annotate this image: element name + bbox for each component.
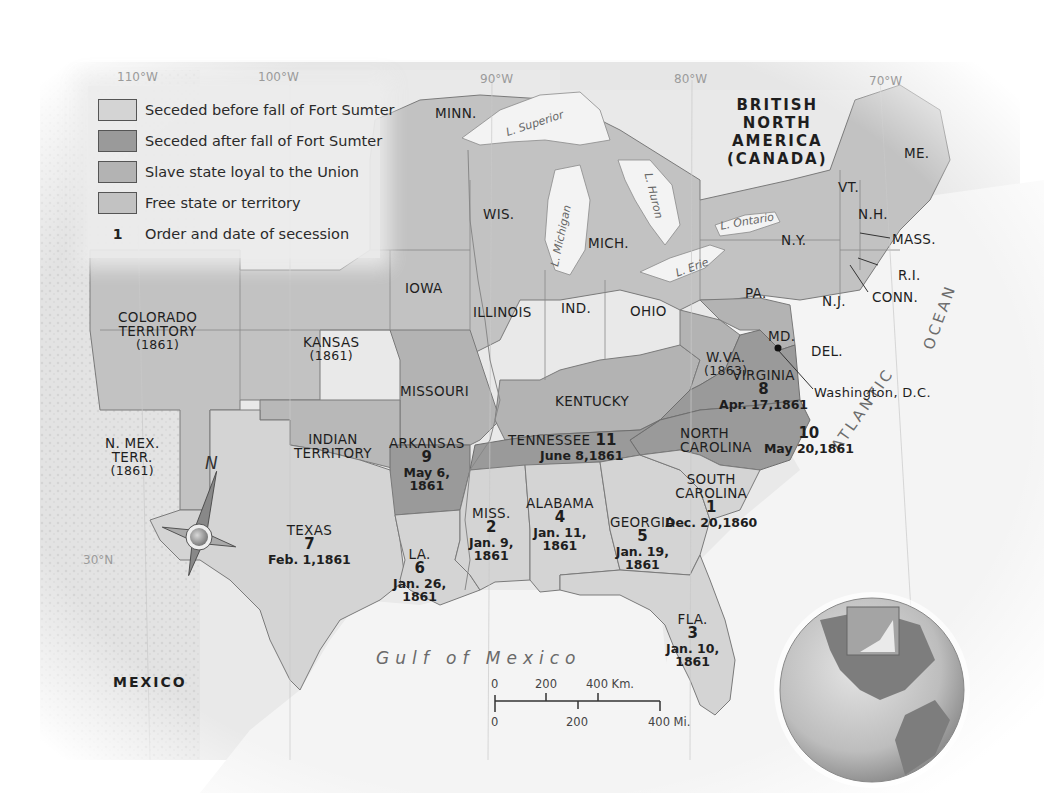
label-mexico: MEXICO: [113, 675, 187, 690]
label-indian-territory: INDIAN TERRITORY: [294, 432, 372, 460]
label-new-mexico-territory: N. MEX. TERR. (1861): [105, 436, 160, 477]
label-line: COLORADO: [118, 310, 197, 324]
label-south-carolina: SOUTH CAROLINA 1 Dec. 20,1860: [665, 472, 757, 529]
legend-swatch: [98, 130, 137, 152]
canada-line: AMERICA: [727, 132, 828, 150]
label-maryland: MD.: [768, 329, 795, 343]
label-wisconsin: WIS.: [483, 207, 514, 221]
label-minnesota: MINN.: [435, 106, 477, 120]
legend-item-slave-loyal: Slave state loyal to the Union: [98, 160, 359, 184]
state-name: CAROLINA: [680, 440, 752, 454]
label-kansas: KANSAS (1861): [303, 335, 359, 362]
longitude-label: 70°W: [869, 74, 902, 88]
label-line: TERRITORY: [118, 324, 197, 338]
label-line: W.VA.: [704, 350, 747, 364]
secession-order: 9: [389, 450, 465, 466]
longitude-label: 90°W: [480, 72, 513, 86]
label-indiana: IND.: [561, 301, 591, 315]
compass-north-label: N: [205, 455, 218, 473]
order-marker: 1: [98, 226, 137, 242]
label-illinois: ILLINOIS: [473, 305, 532, 319]
legend-label: Seceded before fall of Fort Sumter: [145, 102, 395, 118]
secession-date: Dec. 20,1860: [665, 516, 757, 529]
secession-order: 1: [665, 500, 757, 516]
label-louisiana: LA. 6 Jan. 26, 1861: [393, 547, 446, 603]
legend-label: Slave state loyal to the Union: [145, 164, 359, 180]
label-new-york: N.Y.: [781, 233, 806, 247]
label-rhode-island: R.I.: [898, 268, 921, 282]
state-name: TENNESSEE: [508, 432, 590, 448]
latitude-label: 30°N: [83, 553, 113, 567]
secession-date: 1861: [389, 479, 465, 492]
label-line: KANSAS: [303, 335, 359, 349]
state-name: SOUTH: [665, 472, 757, 486]
label-iowa: IOWA: [405, 281, 443, 295]
legend-item-seceded-after: Seceded after fall of Fort Sumter: [98, 129, 382, 153]
secession-date: Feb. 1,1861: [268, 553, 351, 566]
secession-order: 2: [469, 520, 514, 536]
secession-order: 7: [268, 537, 351, 553]
label-colorado-territory: COLORADO TERRITORY (1861): [118, 310, 197, 351]
scale-mi-0: 0: [491, 715, 498, 729]
secession-date: 1861: [469, 549, 514, 562]
label-maine: ME.: [904, 146, 929, 160]
label-virginia: VIRGINIA 8 Apr. 17,1861: [719, 368, 808, 411]
label-line: INDIAN: [294, 432, 372, 446]
scale-mi-200: 200: [566, 715, 588, 729]
secession-date: 1861: [666, 655, 719, 668]
map-legend: Seceded before fall of Fort Sumter Seced…: [88, 86, 380, 258]
label-massachusetts: MASS.: [892, 232, 936, 246]
label-arkansas: ARKANSAS 9 May 6, 1861: [389, 436, 465, 492]
legend-swatch: [98, 192, 137, 214]
legend-swatch: [98, 161, 137, 183]
label-north-carolina: NORTH CAROLINA 10 May 20,1861: [680, 426, 854, 455]
canada-line: NORTH: [727, 114, 828, 132]
legend-label: Order and date of secession: [145, 226, 349, 242]
scale-km-200: 200: [535, 677, 557, 691]
longitude-label: 80°W: [674, 72, 707, 86]
secession-date: June 8,1861: [508, 449, 624, 462]
secession-date: 1861: [393, 590, 446, 603]
label-line: TERRITORY: [294, 446, 372, 460]
canada-line: (CANADA): [727, 150, 828, 168]
label-ohio: OHIO: [630, 304, 667, 318]
scale-mi-400: 400 Mi.: [648, 715, 690, 729]
label-new-jersey: N.J.: [822, 294, 846, 308]
canada-line: BRITISH: [727, 96, 828, 114]
label-new-hampshire: N.H.: [858, 207, 888, 221]
longitude-label: 110°W: [117, 70, 158, 84]
legend-swatch: [98, 99, 137, 121]
secession-date: May 20,1861: [764, 442, 854, 455]
label-delaware: DEL.: [811, 344, 843, 358]
label-florida: FLA. 3 Jan. 10, 1861: [666, 612, 719, 668]
secession-order: 3: [666, 626, 719, 642]
label-missouri: MISSOURI: [400, 384, 469, 398]
secession-order: 5: [610, 529, 675, 545]
legend-item-free: Free state or territory: [98, 191, 301, 215]
longitude-label: 100°W: [258, 70, 299, 84]
legend-item-seceded-before: Seceded before fall of Fort Sumter: [98, 98, 395, 122]
secession-order: 11: [596, 431, 617, 449]
label-pennsylvania: PA.: [745, 286, 766, 300]
label-line: TERR.: [105, 450, 160, 464]
scale-km-400: 400 Km.: [586, 677, 634, 691]
locator-globe: [774, 592, 970, 788]
secession-map: Seceded before fall of Fort Sumter Seced…: [0, 0, 1044, 793]
label-texas: TEXAS 7 Feb. 1,1861: [268, 523, 351, 566]
label-alabama: ALABAMA 4 Jan. 11, 1861: [526, 496, 594, 552]
secession-order: 8: [719, 382, 808, 398]
label-year: (1861): [118, 338, 197, 351]
secession-order: 10: [764, 426, 854, 442]
label-canada: BRITISH NORTH AMERICA (CANADA): [727, 96, 828, 168]
secession-order: 4: [526, 510, 594, 526]
label-vermont: VT.: [838, 180, 859, 194]
secession-order: 6: [393, 561, 446, 577]
label-connecticut: CONN.: [872, 290, 918, 304]
legend-label: Free state or territory: [145, 195, 301, 211]
secession-date: 1861: [526, 539, 594, 552]
legend-item-order: 1 Order and date of secession: [98, 222, 349, 246]
label-tennessee: TENNESSEE 11 June 8,1861: [508, 432, 624, 462]
state-name: NORTH: [680, 426, 752, 440]
label-year: (1861): [303, 349, 359, 362]
scale-km-0: 0: [491, 677, 498, 691]
